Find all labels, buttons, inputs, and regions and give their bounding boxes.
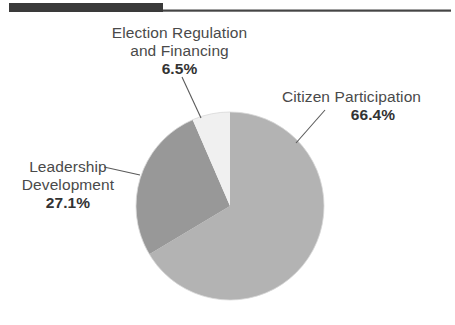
slice-value-election-regulation: 6.5% [97,60,262,78]
chart-page: Election Regulation and Financing 6.5% C… [0,0,455,325]
slice-value-leadership-development: 27.1% [2,194,134,212]
slice-label-election-regulation: Election Regulation and Financing 6.5% [97,24,262,78]
slice-label-citizen-line1: Citizen Participation [282,88,450,106]
slice-label-leadership-line2: Development [2,176,134,194]
leader-line-election [182,77,201,118]
slice-label-leadership-development: Leadership Development 27.1% [2,158,134,212]
slice-label-citizen-participation: Citizen Participation 66.4% [282,88,450,124]
slice-label-leadership-line1: Leadership [2,158,134,176]
slice-value-citizen-participation: 66.4% [282,106,450,124]
slice-label-election-line1: Election Regulation [97,24,262,42]
slice-label-election-line2: and Financing [97,42,262,60]
